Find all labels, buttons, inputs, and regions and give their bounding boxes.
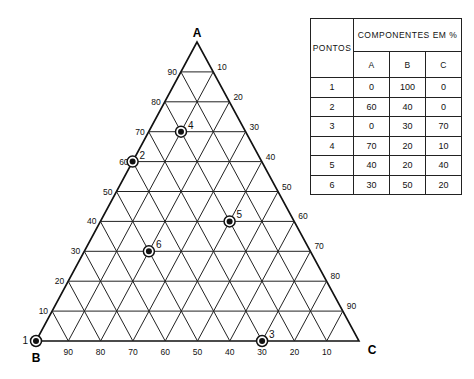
cell-b: 30 [390,117,426,137]
table-row: 4702010 [311,136,462,156]
cell-c: 70 [426,117,462,137]
point-label: 5 [237,209,243,220]
tick-label-a: 50 [103,187,113,197]
table-row: 260400 [311,97,462,117]
tick-label-a: 30 [71,246,81,256]
header-col-c: C [426,52,462,78]
point-marker-dot [146,248,152,254]
cell-a: 0 [354,117,390,137]
tick-label-c: 40 [266,152,276,162]
point-label: 6 [156,239,162,250]
components-table: PONTOS COMPONENTES EM % A B C 101000 260… [310,18,462,195]
grid-line [68,72,213,341]
cell-a: 30 [354,175,390,195]
tick-label-b: 90 [64,347,74,357]
cell-ponto: 4 [311,136,354,156]
cell-b: 50 [390,175,426,195]
grid-line [117,192,198,342]
tick-label-c: 50 [282,182,292,192]
cell-c: 10 [426,136,462,156]
tick-label-c: 80 [331,271,341,281]
tick-label-c: 30 [250,122,260,132]
point-label: 3 [269,329,275,340]
tick-label-b: 60 [160,347,170,357]
tick-label-b: 80 [96,347,106,357]
grid-line [133,132,246,341]
table-row: 303070 [311,117,462,137]
cell-ponto: 2 [311,97,354,117]
cell-ponto: 3 [311,117,354,137]
cell-a: 0 [354,78,390,98]
point-label: 2 [140,150,146,161]
cell-a: 70 [354,136,390,156]
tick-label-b: 50 [193,347,203,357]
tick-label-a: 20 [55,276,65,286]
cell-b: 20 [390,156,426,176]
cell-b: 100 [390,78,426,98]
tick-label-c: 10 [217,62,227,72]
tick-label-a: 10 [39,306,49,316]
tick-label-a: 90 [167,67,177,77]
header-col-a: A [354,52,390,78]
tick-label-b: 20 [290,347,300,357]
grid-line [327,311,343,341]
table-row: 5402040 [311,156,462,176]
vertex-label-a: A [193,26,202,40]
point-marker-dot [259,338,265,344]
point-label: 4 [188,120,194,131]
cell-b: 20 [390,136,426,156]
cell-a: 60 [354,97,390,117]
grid-line [262,251,310,341]
cell-c: 0 [426,97,462,117]
tick-label-c: 60 [298,211,308,221]
point-marker-dot [178,129,184,135]
point-marker-dot [227,218,233,224]
point-marker-dot [130,159,136,165]
tick-label-a: 40 [87,216,97,226]
grid-line [84,251,133,341]
table-row: 101000 [311,78,462,98]
tick-label-a: 80 [151,97,161,107]
tick-label-b: 70 [128,347,138,357]
tick-labels: 1020304050607080901020304050607080909080… [39,62,357,357]
tick-label-c: 70 [314,241,324,251]
header-componentes: COMPONENTES EM % [354,19,462,52]
cell-ponto: 1 [311,78,354,98]
tick-label-b: 40 [225,347,235,357]
tick-label-c: 90 [347,301,357,311]
point-label: 1 [22,335,28,346]
vertex-label-c: C [368,343,377,357]
grid-line [149,132,262,341]
cell-ponto: 6 [311,175,354,195]
cell-c: 40 [426,156,462,176]
cell-c: 0 [426,78,462,98]
point-marker-dot [33,338,39,344]
cell-c: 20 [426,175,462,195]
vertex-label-b: B [32,351,41,365]
tick-label-b: 10 [322,347,332,357]
tick-label-a: 70 [135,127,145,137]
header-col-b: B [390,52,426,78]
cell-ponto: 5 [311,156,354,176]
tick-label-c: 20 [233,92,243,102]
grid-line [52,311,68,341]
table-row: 6305020 [311,175,462,195]
tick-label-b: 30 [257,347,267,357]
cell-b: 40 [390,97,426,117]
header-pontos: PONTOS [311,19,354,78]
grid-line [181,72,327,341]
cell-a: 40 [354,156,390,176]
